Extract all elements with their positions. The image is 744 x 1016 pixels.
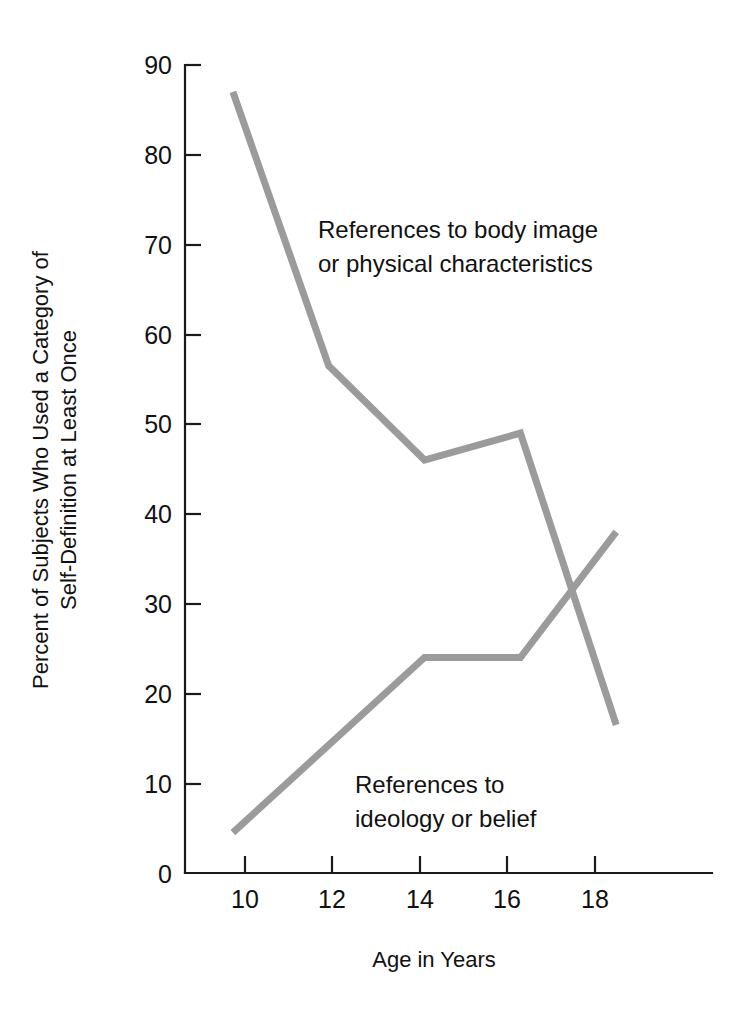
chart-background (0, 0, 744, 1016)
y-tick-label: 50 (144, 410, 172, 438)
y-tick-label: 70 (144, 231, 172, 259)
y-tick-label: 0 (158, 860, 172, 888)
y-tick-label: 90 (144, 51, 172, 79)
line-chart: 90 80 70 60 50 40 30 20 10 0 10 12 14 16… (0, 0, 744, 1016)
annotation-ideology-line2: ideology or belief (355, 805, 537, 832)
x-tick-label: 10 (231, 885, 259, 913)
x-tick-label: 14 (406, 885, 434, 913)
chart-figure: 90 80 70 60 50 40 30 20 10 0 10 12 14 16… (0, 0, 744, 1016)
y-tick-label: 40 (144, 500, 172, 528)
y-axis-title-line2: Self-Definition at Least Once (56, 330, 81, 610)
x-tick-label: 16 (493, 885, 521, 913)
x-tick-label: 18 (581, 885, 609, 913)
x-axis-title: Age in Years (372, 947, 496, 972)
y-tick-label: 20 (144, 680, 172, 708)
y-axis-title-line1: Percent of Subjects Who Used a Category … (28, 250, 53, 689)
y-tick-label: 30 (144, 590, 172, 618)
y-tick-label: 60 (144, 321, 172, 349)
annotation-ideology-line1: References to (355, 771, 504, 798)
annotation-body-image-line2: or physical characteristics (318, 250, 593, 277)
y-tick-label: 10 (144, 770, 172, 798)
y-tick-label: 80 (144, 141, 172, 169)
annotation-body-image-line1: References to body image (318, 216, 598, 243)
x-tick-label: 12 (318, 885, 346, 913)
